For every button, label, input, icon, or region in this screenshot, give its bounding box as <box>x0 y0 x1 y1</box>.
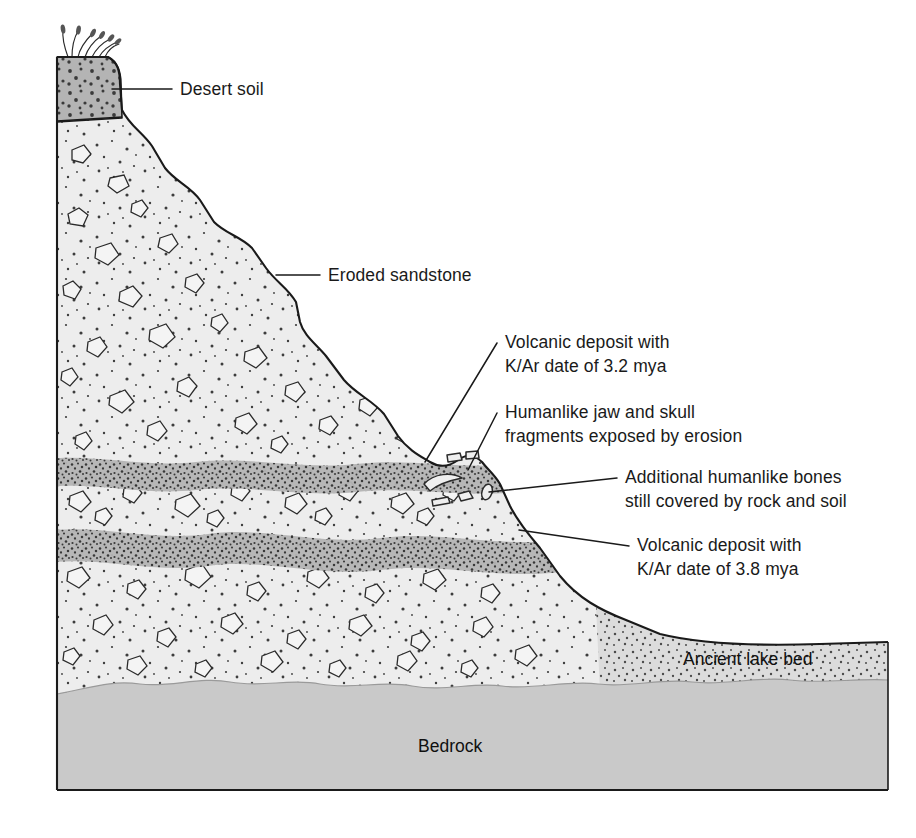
desert-soil-label: Desert soil <box>180 79 264 99</box>
additional-humanlike-bones-label: Additional humanlike bones still covered… <box>625 467 847 511</box>
eroded-sandstone-label-line-1: Eroded sandstone <box>328 265 472 285</box>
additional-bones-line-2: still covered by rock and soil <box>625 491 847 511</box>
eroded-sandstone-label: Eroded sandstone <box>328 265 472 285</box>
volcanic-3-2-line-2: K/Ar date of 3.2 mya <box>505 356 667 376</box>
jaw-skull-line-2: fragments exposed by erosion <box>505 426 742 446</box>
geological-cross-section-diagram: Desert soil Eroded sandstone Volcanic de… <box>0 0 916 838</box>
desert-soil-label-line-1: Desert soil <box>180 79 264 99</box>
humanlike-jaw-skull-label: Humanlike jaw and skull fragments expose… <box>505 402 742 446</box>
bedrock-label: Bedrock <box>418 736 482 756</box>
bedrock-line-1: Bedrock <box>418 736 482 756</box>
jaw-skull-line-1: Humanlike jaw and skull <box>505 402 695 422</box>
volcanic-3-2-line-1: Volcanic deposit with <box>505 332 670 352</box>
leader-volcanic-32 <box>425 343 497 462</box>
ancient-lake-bed-label: Ancient lake bed <box>683 649 812 669</box>
figure-canvas: Desert soil Eroded sandstone Volcanic de… <box>0 0 916 838</box>
grass-tufts <box>60 24 122 57</box>
leader-additional-bones <box>489 478 617 492</box>
volcanic-deposit-3-8-mya-label: Volcanic deposit with K/Ar date of 3.8 m… <box>637 535 807 579</box>
bedrock-body <box>57 679 888 790</box>
volcanic-3-8-line-1: Volcanic deposit with <box>637 535 802 555</box>
volcanic-deposit-3-2-mya-label: Volcanic deposit with K/Ar date of 3.2 m… <box>505 332 675 376</box>
bone-fragment-exposed-1 <box>447 453 462 462</box>
ancient-lake-bed-line-1: Ancient lake bed <box>683 649 812 669</box>
additional-bones-line-1: Additional humanlike bones <box>625 467 842 487</box>
volcanic-3-8-line-2: K/Ar date of 3.8 mya <box>637 559 799 579</box>
